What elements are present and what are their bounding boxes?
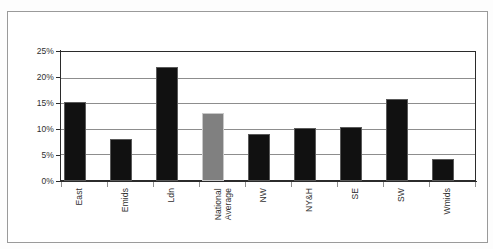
x-axis-label-nw: NW bbox=[258, 188, 268, 202]
x-tick-mark-9 bbox=[475, 182, 476, 187]
bar-emids bbox=[110, 139, 132, 181]
y-tick-label-20: 20% bbox=[37, 72, 54, 82]
y-tick-label-15: 15% bbox=[37, 98, 54, 108]
x-tick-mark-7 bbox=[383, 182, 384, 187]
chart-figure: 25% 20% 15% 10% 5% 0% East Emids L bbox=[0, 0, 493, 249]
bar-wmids bbox=[432, 159, 454, 181]
x-tick-mark-5 bbox=[291, 182, 292, 187]
bars-layer bbox=[61, 52, 476, 181]
y-tick-label-5: 5% bbox=[42, 150, 55, 160]
x-tick-mark-0 bbox=[61, 182, 62, 187]
x-axis-label-ldn: Ldn bbox=[166, 188, 176, 202]
bar-sw bbox=[386, 99, 408, 181]
x-axis-label-sw: SW bbox=[396, 188, 406, 202]
x-tick-mark-4 bbox=[245, 182, 246, 187]
y-tick-label-0: 0% bbox=[42, 176, 55, 186]
bar-se bbox=[340, 127, 362, 181]
x-tick-mark-8 bbox=[429, 182, 430, 187]
x-axis-label-national-average-line2: Average bbox=[223, 188, 233, 220]
bar-east bbox=[64, 102, 86, 181]
x-axis-label-east: East bbox=[74, 188, 84, 205]
x-axis-label-national-average-line1: National bbox=[213, 188, 223, 220]
x-tick-mark-1 bbox=[107, 182, 108, 187]
x-tick-mark-3 bbox=[199, 182, 200, 187]
bar-nyh bbox=[294, 128, 316, 181]
x-axis-line bbox=[60, 181, 477, 182]
y-axis-tick-labels: 25% 20% 15% 10% 5% 0% bbox=[0, 0, 54, 249]
x-tick-mark-6 bbox=[337, 182, 338, 187]
x-axis-label-se: SE bbox=[350, 188, 360, 200]
x-axis-label-emids: Emids bbox=[120, 188, 130, 212]
x-axis-label-national-average: National Average bbox=[203, 188, 225, 230]
y-tick-label-10: 10% bbox=[37, 124, 54, 134]
x-tick-mark-2 bbox=[153, 182, 154, 187]
y-tick-label-25: 25% bbox=[37, 46, 54, 56]
x-axis-label-wmids: Wmids bbox=[442, 188, 452, 214]
bar-ldn bbox=[156, 67, 178, 181]
bar-national-average bbox=[202, 113, 224, 181]
x-axis-label-nyh: NY&H bbox=[304, 188, 314, 212]
bar-nw bbox=[248, 134, 270, 181]
